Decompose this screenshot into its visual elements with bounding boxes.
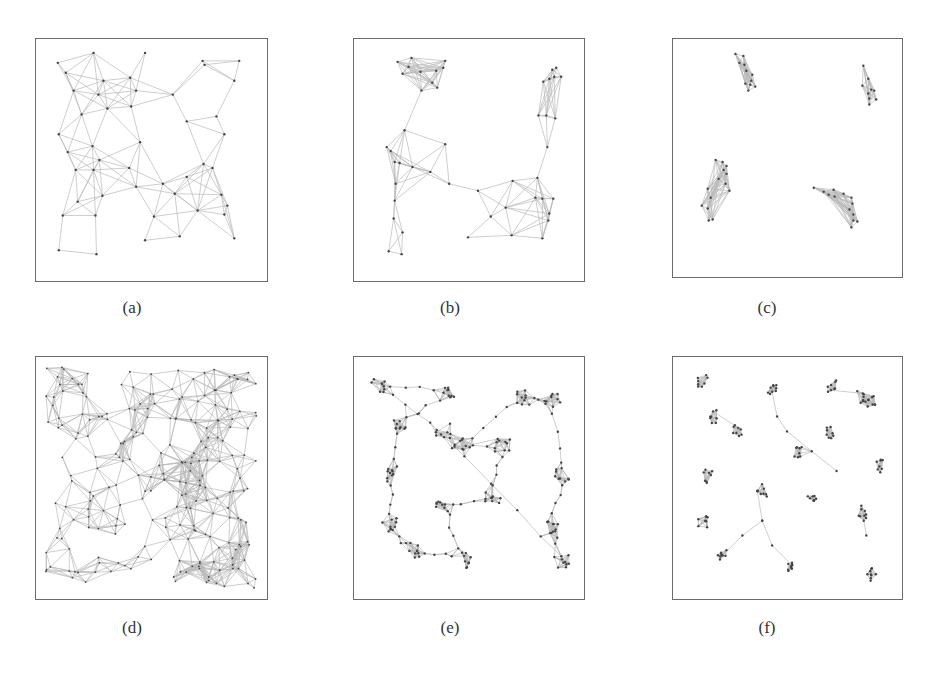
graph-node [45, 571, 47, 573]
graph-node [164, 517, 166, 519]
graph-node [734, 424, 736, 426]
graph-node [243, 490, 245, 492]
graph-node [834, 387, 836, 389]
graph-node [509, 438, 511, 440]
graph-node [211, 167, 213, 169]
graph-node [516, 509, 518, 511]
graph-node [457, 547, 459, 549]
graph-node [190, 462, 192, 464]
graph-node [255, 383, 257, 385]
graph-node [496, 438, 498, 440]
graph-f [673, 357, 902, 599]
graph-node [556, 393, 558, 395]
graph-node [443, 436, 445, 438]
graph-node [394, 446, 396, 448]
graph-node [204, 487, 206, 489]
graph-node [832, 435, 834, 437]
graph-node [53, 396, 55, 398]
graph-node [447, 389, 449, 391]
graph-node [186, 176, 188, 178]
graph-node [868, 97, 870, 99]
graph-node [722, 169, 724, 171]
graph-node [389, 472, 391, 474]
graph-node [561, 558, 563, 560]
graph-node [208, 576, 210, 578]
graph-node [548, 212, 550, 214]
graph-node [383, 380, 385, 382]
graph-node [215, 404, 217, 406]
graph-node [555, 67, 557, 69]
graph-node [139, 403, 141, 405]
graph-node [189, 470, 191, 472]
graph-node [775, 384, 777, 386]
graph-node [524, 389, 526, 391]
graph-node [253, 587, 255, 589]
graph-node [719, 555, 721, 557]
graph-node [546, 146, 548, 148]
graph-node [392, 493, 394, 495]
graph-node [193, 529, 195, 531]
graph-node [386, 146, 388, 148]
graph-node [72, 89, 74, 91]
graph-node [763, 487, 765, 489]
graph-node [793, 455, 795, 457]
graph-node [144, 239, 146, 241]
graph-node [195, 422, 197, 424]
graph-node [184, 461, 186, 463]
graph-node [444, 387, 446, 389]
graph-node [504, 206, 506, 208]
graph-node [717, 178, 719, 180]
graph-d [36, 357, 267, 599]
graph-node [91, 145, 93, 147]
graph-node [134, 409, 136, 411]
graph-node [541, 237, 543, 239]
graph-node [825, 433, 827, 435]
graph-node [389, 150, 391, 152]
graph-node [490, 497, 492, 499]
graph-node [68, 570, 70, 572]
graph-node [459, 440, 461, 442]
graph-node [247, 541, 249, 543]
graph-node [881, 468, 883, 470]
graph-node [382, 391, 384, 393]
graph-node [191, 565, 193, 567]
graph-node [106, 107, 108, 109]
graph-node [95, 253, 97, 255]
graph-node [185, 482, 187, 484]
graph-node [373, 378, 375, 380]
graph-node [391, 470, 393, 472]
graph-node [235, 549, 237, 551]
graph-node [213, 561, 215, 563]
graph-node [873, 89, 875, 91]
graph-node [559, 447, 561, 449]
graph-node [58, 417, 60, 419]
graph-node [869, 570, 871, 572]
graph-node [398, 535, 400, 537]
graph-node [830, 437, 832, 439]
graph-node [501, 456, 503, 458]
graph-node [554, 542, 556, 544]
graph-node [559, 494, 561, 496]
graph-node [444, 60, 446, 62]
graph-node [445, 553, 447, 555]
graph-node [452, 503, 454, 505]
graph-node [706, 377, 708, 379]
graph-node [467, 236, 469, 238]
graph-node [848, 208, 850, 210]
graph-node [115, 453, 117, 455]
graph-node [704, 468, 706, 470]
graph-node [697, 383, 699, 385]
graph-node [396, 61, 398, 63]
graph-node [387, 530, 389, 532]
graph-node [379, 391, 381, 393]
graph-node [715, 422, 717, 424]
graph-node [860, 505, 862, 507]
graph-node [56, 537, 58, 539]
graph-node [97, 528, 99, 530]
graph-node [446, 510, 448, 512]
graph-node [70, 475, 72, 477]
graph-node [835, 470, 837, 472]
graph-node [466, 566, 468, 568]
graph-node [791, 568, 793, 570]
graph-node [67, 151, 69, 153]
